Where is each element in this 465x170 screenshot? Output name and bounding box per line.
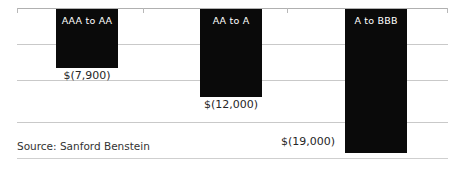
axis-tick-left <box>17 8 18 13</box>
source-note: Source: Sanford Benstein <box>17 139 150 153</box>
axis-tick-1 <box>143 8 144 13</box>
bar-a-to-bbb[interactable]: A to BBB <box>345 9 407 153</box>
bar-label-a-to-bbb: A to BBB <box>345 15 407 27</box>
bar-chart-figure: AAA to AA $(7,900) AA to A $(12,000) A t… <box>0 0 465 170</box>
bar-label-aaa-to-aa: AAA to AA <box>56 15 118 27</box>
value-label-aaa-to-aa: $(7,900) <box>52 69 122 82</box>
value-label-aa-to-a: $(12,000) <box>196 98 266 111</box>
bar-aaa-to-aa[interactable]: AAA to AA <box>56 9 118 68</box>
bar-label-aa-to-a: AA to A <box>200 15 262 27</box>
bar-aa-to-a[interactable]: AA to A <box>200 9 262 97</box>
gridline-4 <box>17 158 448 159</box>
value-label-a-to-bbb: $(19,000) <box>273 135 343 148</box>
axis-tick-right <box>447 8 448 13</box>
axis-tick-2 <box>287 8 288 13</box>
